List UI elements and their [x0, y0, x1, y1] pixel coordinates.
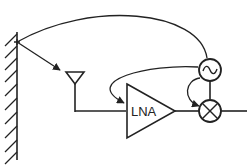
- oscillator-icon: [199, 59, 221, 81]
- antenna-icon: [66, 72, 84, 112]
- rf-diagram: LNA: [0, 0, 252, 167]
- lna-block: LNA: [127, 84, 175, 138]
- mixer-icon: [199, 100, 221, 122]
- lna-label: LNA: [131, 104, 157, 119]
- reflecting-wall: [5, 32, 17, 164]
- lo-leakage-to-lna: [110, 67, 198, 103]
- reflection-arrow: [17, 42, 60, 70]
- leakage-path-wall: [17, 16, 207, 58]
- lo-leakage-to-mixer: [187, 78, 200, 106]
